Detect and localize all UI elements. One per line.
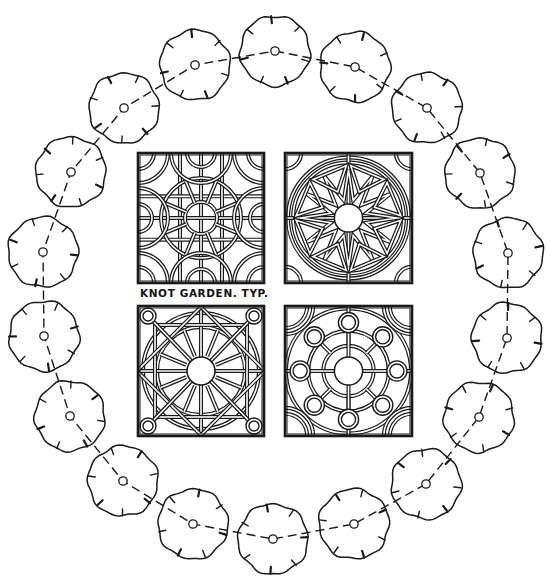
tree-notch [337, 37, 341, 43]
tree-notch [535, 246, 542, 247]
knot-panel-star-circle [137, 306, 265, 436]
tree-notch [504, 154, 510, 158]
tree-notch [71, 255, 78, 256]
trunk-icon [39, 248, 47, 256]
trunk-icon [475, 413, 483, 421]
tree-notch [178, 549, 181, 555]
tree-notch [145, 499, 150, 503]
tree-notch [330, 87, 335, 92]
trunk-icon [271, 47, 279, 55]
tree-symbol [9, 301, 81, 372]
tree-notch [170, 498, 175, 503]
knot-panel-ring-of-circles [257, 278, 440, 464]
tree-notch [11, 264, 17, 267]
tree-notch [51, 195, 55, 201]
tree-notch [45, 149, 50, 154]
tree-notch [320, 63, 327, 64]
tree-notch [138, 451, 142, 457]
tree-symbol [320, 31, 391, 103]
knot-panel-star-burst [269, 137, 428, 299]
tree-notch [32, 219, 34, 226]
tree-notch [180, 90, 183, 96]
tree-notch [302, 59, 309, 61]
tree-notch [485, 139, 486, 146]
trunk-icon [40, 332, 48, 340]
tree-notch [529, 271, 534, 275]
tree-notch [271, 16, 272, 23]
knot-panel-grid-arcs [108, 123, 294, 313]
tree-notch [446, 459, 451, 464]
tree-notch [392, 491, 399, 493]
trunk-icon [503, 334, 511, 342]
tree-notch [198, 490, 199, 497]
tree-notch [55, 304, 58, 310]
tree-notch [222, 73, 229, 75]
tree-notch [98, 500, 103, 505]
tree-symbol [445, 138, 515, 208]
tree-notch [334, 547, 338, 553]
tree-notch [295, 26, 300, 31]
tree-notch [96, 185, 102, 188]
trunk-icon [422, 480, 430, 488]
tree-symbol [391, 449, 462, 521]
tree-notch [270, 567, 271, 574]
tree-symbol [158, 489, 229, 559]
tree-notch [136, 76, 139, 82]
trunk-icon [191, 61, 199, 69]
tree-notch [48, 364, 49, 371]
dashed-tree-alignment-path [43, 51, 508, 539]
tree-notch [191, 30, 192, 37]
trunk-icon [476, 169, 484, 177]
tree-notch [477, 265, 483, 268]
tree-notch [36, 174, 43, 175]
tree-notch [443, 80, 447, 86]
tree-notch [421, 74, 422, 81]
tree-symbol [89, 73, 159, 143]
tree-notch [220, 533, 227, 535]
tree-notch [503, 431, 509, 435]
tree-notch [414, 134, 417, 141]
tree-notch [380, 510, 386, 513]
trunk-icon [351, 63, 359, 71]
tree-notch [454, 487, 461, 488]
tree-notch [167, 43, 173, 47]
tree-notch [40, 399, 46, 402]
knot-garden-label: KNOT GARDEN. TYP. [140, 287, 269, 299]
tree-ring [8, 16, 543, 574]
site-plan-drawing [0, 0, 551, 576]
trunk-icon [67, 168, 75, 176]
tree-notch [62, 227, 67, 232]
tree-notch [247, 30, 253, 34]
tree-notch [521, 363, 524, 369]
tree-notch [96, 157, 102, 160]
tree-notch [79, 199, 81, 206]
tree-symbol [471, 302, 542, 373]
trunk-icon [119, 477, 127, 485]
tree-symbol [160, 29, 231, 100]
alignment-line [43, 51, 508, 539]
tree-notch [205, 91, 207, 98]
tree-symbol [8, 216, 79, 287]
tree-notch [362, 33, 364, 40]
tree-notch [483, 445, 484, 452]
trunk-icon [189, 520, 197, 528]
tree-notch [98, 420, 105, 421]
tree-notch [292, 560, 297, 565]
tree-notch [472, 341, 479, 342]
tree-notch [91, 98, 98, 100]
tree-notch [38, 427, 44, 430]
tree-notch [111, 448, 113, 455]
tree-notch [92, 395, 98, 399]
tree-symbol [239, 16, 311, 87]
tree-notch [361, 490, 363, 497]
trunk-icon [269, 535, 277, 543]
tree-symbol [36, 136, 107, 206]
tree-symbol [34, 381, 105, 453]
tree-notch [20, 356, 25, 361]
tree-notch [267, 505, 268, 512]
tree-notch [244, 555, 250, 559]
tree-notch [535, 343, 542, 344]
tree-notch [22, 309, 26, 314]
tree-notch [501, 280, 502, 287]
tree-symbol [87, 445, 158, 516]
